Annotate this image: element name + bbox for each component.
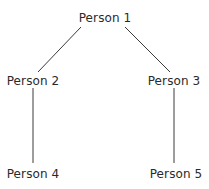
family-tree-diagram: Person 1 Person 2 Person 3 Person 4 Pers… <box>0 0 209 189</box>
node-person-5: Person 5 <box>150 167 203 181</box>
node-person-4: Person 4 <box>7 167 60 181</box>
node-person-1: Person 1 <box>79 11 132 25</box>
node-person-3: Person 3 <box>148 74 201 88</box>
edge-person1-person3 <box>125 27 170 72</box>
connector-lines <box>0 0 209 189</box>
edge-person1-person2 <box>38 27 81 72</box>
node-person-2: Person 2 <box>7 74 60 88</box>
